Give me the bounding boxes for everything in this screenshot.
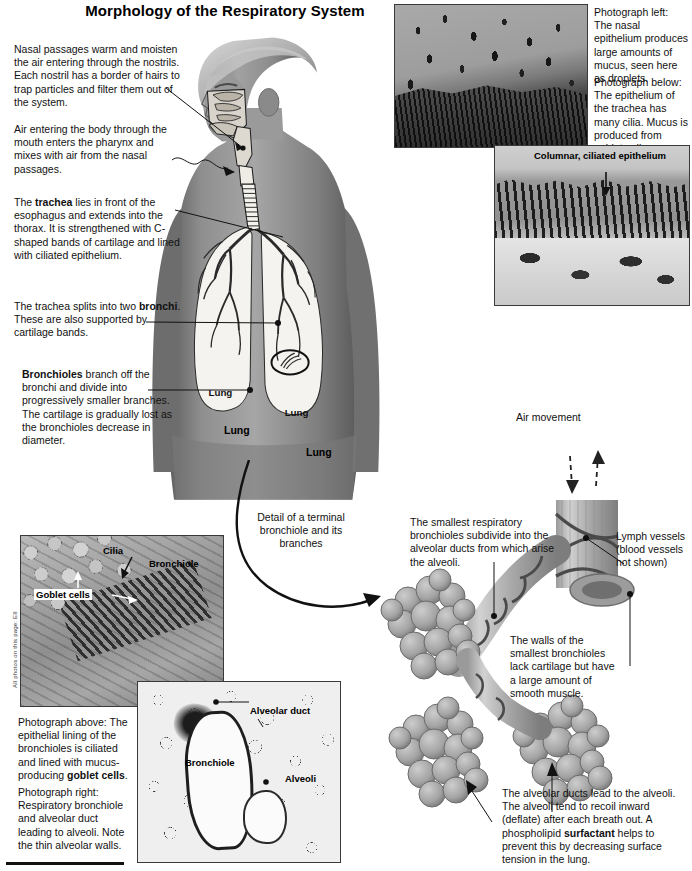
alveolar-sac-lower-left xyxy=(389,697,488,807)
caption-smallest-bronchioles: The smallest respiratory bronchioles sub… xyxy=(410,516,568,569)
caption-alveolar-ducts-term: surfactant xyxy=(564,827,615,839)
leader-trachea xyxy=(175,210,283,237)
leader-bronchioles-dot xyxy=(247,387,253,393)
caption-photo-above-post: . xyxy=(125,769,128,781)
caption-photo-above: Photograph above: The epithelial lining … xyxy=(18,716,130,782)
leader-alveolar-duct xyxy=(137,681,339,861)
caption-photo-above-term: goblet cells xyxy=(67,769,125,781)
leader-lines-left xyxy=(0,0,420,520)
arrow-columnar xyxy=(596,172,616,198)
leader-nasal-dot xyxy=(240,145,245,150)
leader-bronchi-dot xyxy=(275,320,281,326)
leader-bronchi xyxy=(146,322,278,323)
caption-photo-left: Photograph left: The nasal epithelium pr… xyxy=(594,6,688,85)
bottom-rule xyxy=(6,862,124,865)
photo-columnar-epithelium xyxy=(494,145,690,306)
leader-mouth-arrow xyxy=(223,166,235,176)
arrows-goblet-photo xyxy=(20,535,222,705)
air-arrow-in xyxy=(566,480,579,494)
caption-bronchiole-walls: The walls of the smallest bronchioles la… xyxy=(510,634,616,700)
label-columnar-epithelium: Columnar, ciliated epithelium xyxy=(530,150,670,162)
caption-photo-right: Photograph right: Respiratory bronchiole… xyxy=(18,786,130,852)
photo-credit: All photos on this page: EII xyxy=(12,608,18,688)
air-arrow-out xyxy=(592,450,605,464)
leader-ducts-2 xyxy=(470,788,492,822)
leader-nasal xyxy=(166,88,243,148)
caption-lymph-vessels: Lymph vessels (blood vessels not shown) xyxy=(616,530,690,570)
photo-nasal-epithelium xyxy=(394,4,588,148)
leader-mouth-squiggle xyxy=(172,158,228,169)
caption-photo-below: Photograph below: The epithelium of the … xyxy=(594,76,690,155)
caption-alveolar-ducts: The alveolar ducts lead to the alveoli. … xyxy=(502,787,688,866)
label-air-movement: Air movement xyxy=(516,411,581,424)
